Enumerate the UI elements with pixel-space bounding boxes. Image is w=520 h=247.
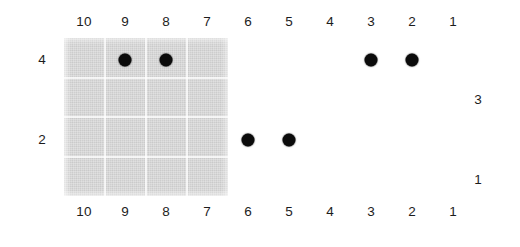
left-axis-label-4: 4	[38, 53, 46, 67]
top-axis-label-2: 2	[408, 15, 416, 29]
bottom-axis-label-9: 9	[121, 205, 129, 219]
bottom-axis-label-1: 1	[449, 205, 457, 219]
data-point-dot	[406, 54, 419, 67]
bottom-axis-label-8: 8	[162, 205, 170, 219]
bottom-axis-label-3: 3	[367, 205, 375, 219]
left-axis-label-2: 2	[38, 133, 46, 147]
bottom-axis-label-4: 4	[326, 205, 334, 219]
bottom-axis-label-5: 5	[285, 205, 293, 219]
right-axis-label-3: 3	[474, 93, 482, 107]
top-axis-label-3: 3	[367, 15, 375, 29]
figure-canvas: 10987654321 10987654321 42 31	[0, 0, 520, 247]
bottom-axis-label-7: 7	[203, 205, 211, 219]
bottom-axis-label-2: 2	[408, 205, 416, 219]
data-point-dot	[242, 134, 255, 147]
top-axis-label-7: 7	[203, 15, 211, 29]
top-axis-label-5: 5	[285, 15, 293, 29]
bottom-axis-label-10: 10	[76, 205, 91, 219]
right-axis-label-1: 1	[474, 173, 482, 187]
data-point-dot	[283, 134, 296, 147]
top-axis-label-4: 4	[326, 15, 334, 29]
shaded-plate-region	[64, 38, 228, 196]
data-point-dot	[119, 54, 132, 67]
top-axis-label-10: 10	[76, 15, 91, 29]
top-axis-label-8: 8	[162, 15, 170, 29]
top-axis-label-1: 1	[449, 15, 457, 29]
top-axis-label-6: 6	[244, 15, 252, 29]
bottom-axis-label-6: 6	[244, 205, 252, 219]
data-point-dot	[365, 54, 378, 67]
top-axis-label-9: 9	[121, 15, 129, 29]
data-point-dot	[160, 54, 173, 67]
